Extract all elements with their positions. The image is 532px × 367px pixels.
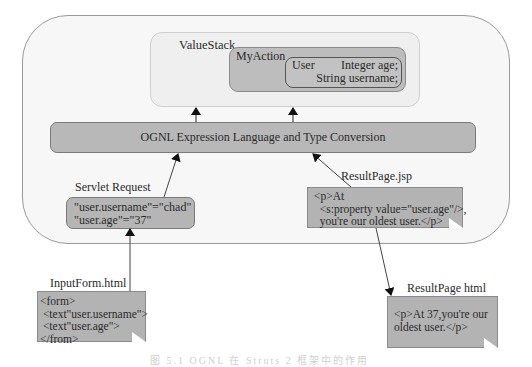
arrow-jsp-to-result-html bbox=[376, 228, 391, 295]
arrow-jsp-to-ognl bbox=[313, 154, 351, 187]
arrow-servlet-to-ognl bbox=[164, 154, 178, 197]
figure-caption: 图 5.1 OGNL 在 Struts 2 框架中的作用 bbox=[150, 352, 369, 367]
